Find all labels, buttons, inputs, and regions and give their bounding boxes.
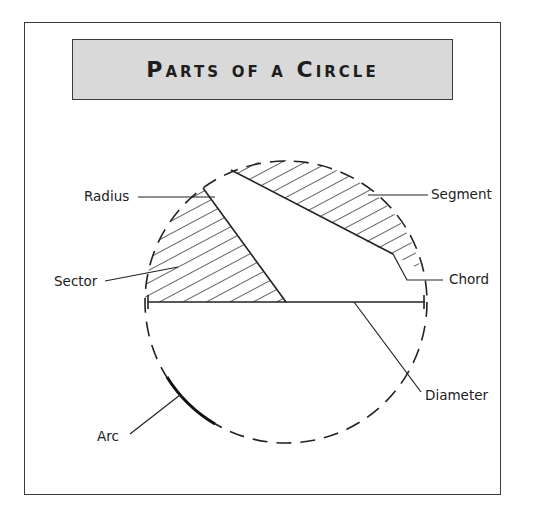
label-arc: Arc — [97, 430, 119, 444]
label-sector: Sector — [54, 275, 97, 289]
label-diameter: Diameter — [425, 389, 488, 403]
label-chord: Chord — [449, 273, 489, 287]
arc-highlight — [167, 377, 215, 424]
arc-leader — [130, 395, 180, 434]
label-radius: Radius — [84, 190, 129, 204]
diameter-leader — [354, 302, 421, 392]
label-segment: Segment — [431, 188, 492, 202]
circle-diagram — [0, 0, 555, 518]
